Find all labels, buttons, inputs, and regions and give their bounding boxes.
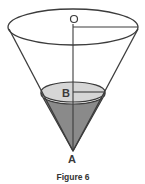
figure-caption: Figure 6 [56,172,89,182]
label-b: B [62,87,70,99]
point-o-marker [71,16,78,23]
cone-diagram: B A Figure 6 [0,0,145,184]
label-a: A [68,153,76,165]
